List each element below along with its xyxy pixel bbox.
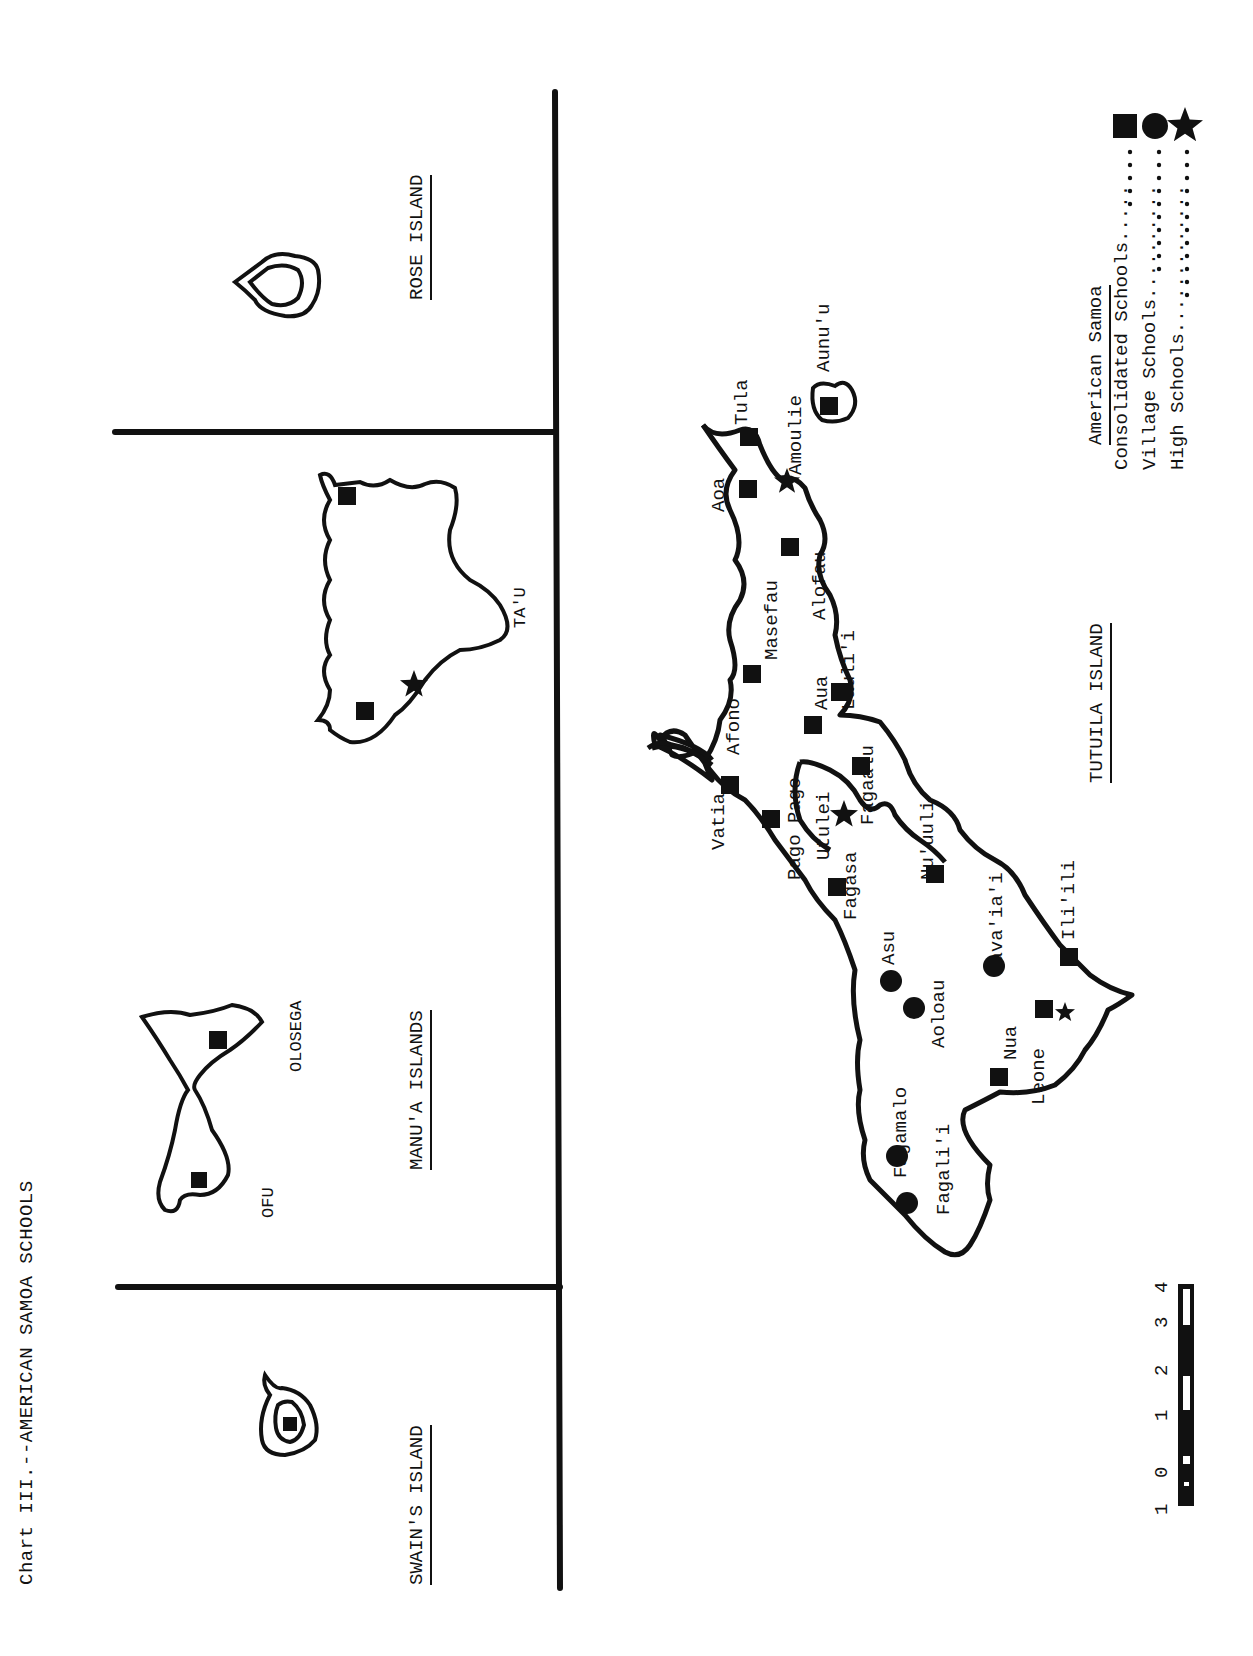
village-label-vatia: Vatia xyxy=(710,793,729,850)
village-label-fagalii: Fagali'i xyxy=(935,1124,954,1215)
village-label-laulii: Lauli'i xyxy=(840,630,859,710)
ofu-school-marker xyxy=(191,1172,207,1188)
village-label-alofau: Alofau xyxy=(811,552,830,620)
village-label-amoulie: Amoulie xyxy=(787,395,806,475)
region-label-manua: MANU'A ISLANDS xyxy=(406,1010,432,1170)
village-label-masefau: Masefau xyxy=(763,580,782,660)
village-label-fagasa: Fagasa xyxy=(842,852,861,920)
scale-bar xyxy=(1178,1284,1194,1506)
island-label-aunuu: Aunu'u xyxy=(815,304,834,372)
tau-school-south-marker xyxy=(356,702,374,720)
village-label-pavaiai: Pava'ia'i xyxy=(988,872,1007,975)
map-canvas xyxy=(0,0,1253,1656)
region-label-tutuila: TUTUILA ISLAND xyxy=(1086,623,1112,783)
village-label-iliili: Ili'ili xyxy=(1060,860,1079,940)
village-label-nuuuli: Nu'uuli xyxy=(919,800,938,880)
divider-lines xyxy=(115,92,560,1588)
region-label-rose: ROSE ISLAND xyxy=(406,175,432,300)
village-label-tula: Tula xyxy=(733,379,752,425)
tau-island-shape xyxy=(318,474,508,743)
scale-tick-4: 4 xyxy=(1153,1282,1172,1293)
tau-school-north-marker xyxy=(338,487,356,505)
region-label-swains: SWAIN'S ISLAND xyxy=(406,1425,432,1585)
swains-school-marker xyxy=(283,1417,297,1431)
scale-tick-2: 2 xyxy=(1153,1365,1172,1376)
aunuu-school-marker xyxy=(820,397,838,415)
island-label-ofu: OFU xyxy=(260,1187,277,1218)
scale-tick-3: 3 xyxy=(1153,1317,1172,1328)
village-label-utulei: Utulei xyxy=(815,792,834,860)
chart-title: Chart III.--AMERICAN SAMOA SCHOOLS xyxy=(18,1180,37,1585)
village-label-nua: Nua xyxy=(1002,1026,1021,1060)
village-label-pago-pago: Pago Pago xyxy=(786,777,805,880)
village-label-aua: Aua xyxy=(813,676,832,710)
village-label-aoloau: Aoloau xyxy=(930,980,949,1048)
village-label-afono: Afono xyxy=(725,698,744,755)
legend-item-consolidated: Consolidated Schools..... xyxy=(1113,185,1132,470)
tau-high-school-marker xyxy=(400,670,428,697)
rose-island-shape xyxy=(235,254,319,316)
olosega-school-marker xyxy=(209,1031,227,1049)
village-label-fagamalo: Fagamalo xyxy=(892,1087,911,1178)
scale-tick-1-left: 1 xyxy=(1153,1504,1172,1515)
village-label-fagaalu: Fagaalu xyxy=(859,745,878,825)
scale-tick-0: 0 xyxy=(1153,1467,1172,1478)
village-label-leone: Leone xyxy=(1030,1048,1049,1105)
legend-item-high: High Schools............. xyxy=(1169,185,1188,470)
legend-item-village: Village Schools.......... xyxy=(1141,185,1160,470)
swains-island-shape xyxy=(261,1375,317,1455)
legend-heading: American Samoa xyxy=(1085,285,1111,445)
island-label-olosega: OLOSEGA xyxy=(288,1001,305,1072)
village-label-asu: Asu xyxy=(880,931,899,965)
scale-tick-1: 1 xyxy=(1153,1410,1172,1421)
island-label-tau: TA'U xyxy=(512,587,529,628)
village-label-aoa: Aoa xyxy=(710,478,729,512)
legend-symbols xyxy=(1113,107,1203,141)
